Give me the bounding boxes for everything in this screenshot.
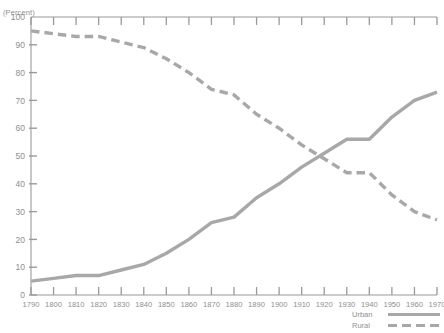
y-tick-label: 10 [16,262,26,272]
x-tick-label: 1910 [293,300,310,309]
x-axis-tick-marks-top [31,17,437,25]
x-axis-tick-labels: 1790180018101820183018401850186018701880… [23,300,444,309]
legend-label-rural: Rural [352,321,382,330]
x-tick-label: 1940 [361,300,378,309]
x-tick-label: 1920 [316,300,333,309]
chart-legend: Urban Rural [352,309,444,331]
x-tick-label: 1790 [23,300,40,309]
y-tick-label: 70 [16,96,26,106]
y-tick-label: 100 [11,12,25,22]
x-tick-label: 1950 [383,300,400,309]
legend-label-urban: Urban [352,310,382,319]
x-tick-label: 1960 [406,300,423,309]
x-tick-label: 1810 [68,300,85,309]
x-axis-tick-marks-bottom [31,287,437,295]
axis-lines [31,17,437,295]
x-tick-label: 1850 [158,300,175,309]
x-tick-label: 1930 [338,300,355,309]
x-tick-label: 1820 [90,300,107,309]
y-tick-label: 40 [16,179,26,189]
x-tick-label: 1800 [45,300,62,309]
x-tick-label: 1880 [226,300,243,309]
x-tick-label: 1830 [113,300,130,309]
legend-item-rural: Rural [352,320,444,331]
y-tick-label: 30 [16,207,26,217]
y-tick-label: 50 [16,151,26,161]
x-tick-label: 1890 [248,300,265,309]
y-tick-label: 20 [16,235,26,245]
x-tick-label: 1840 [135,300,152,309]
solid-line-swatch [388,313,440,316]
x-tick-label: 1970 [429,300,444,309]
legend-swatch-urban [388,309,440,320]
legend-swatch-rural [388,320,440,331]
y-tick-label: 0 [20,290,25,300]
x-tick-label: 1870 [203,300,220,309]
y-tick-label: 80 [16,68,26,78]
series-line-rural [31,31,437,220]
data-series [31,31,437,281]
series-line-urban [31,92,437,281]
x-tick-label: 1860 [180,300,197,309]
y-axis-tick-labels: 0102030405060708090100 [11,12,25,300]
y-tick-label: 60 [16,123,26,133]
y-tick-label: 90 [16,40,26,50]
dashed-line-swatch [388,324,440,327]
chart-canvas: 0102030405060708090100 17901800181018201… [0,0,444,333]
x-tick-label: 1900 [271,300,288,309]
urban-rural-population-chart: (Percent) 0102030405060708090100 1790180… [0,0,444,333]
legend-item-urban: Urban [352,309,444,320]
y-axis-tick-marks [29,45,37,295]
